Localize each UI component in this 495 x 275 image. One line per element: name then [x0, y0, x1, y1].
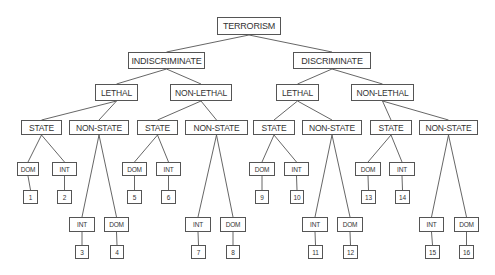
terrorism-typology-tree: TERRORISMINDISCRIMINATEDISCRIMINATELETHA… [0, 0, 495, 275]
edge-ns2-c7 [198, 135, 217, 217]
edge-s2-c5 [135, 135, 158, 162]
node-ns2: NON-STATE [185, 120, 248, 135]
edge-ns1-c4 [99, 135, 117, 217]
node-n16: 16 [459, 245, 474, 259]
edge-ns4-c16 [449, 135, 467, 217]
node-n12: 12 [343, 245, 358, 259]
edge-d_nonleth-ns4 [383, 101, 449, 120]
node-c9: DOM [249, 162, 275, 176]
node-n7: 7 [191, 245, 206, 259]
node-ns4: NON-STATE [419, 120, 478, 135]
node-c15: INT [419, 217, 444, 232]
node-c14: INT [389, 162, 415, 176]
edge-c11-n11 [315, 232, 316, 245]
node-c4: DOM [104, 217, 129, 232]
tree-connectors [0, 0, 495, 275]
node-c13: DOM [355, 162, 381, 176]
edge-ns1-c3 [82, 135, 99, 217]
node-root: TERRORISM [217, 17, 281, 35]
edge-indisc-i_leth [117, 69, 167, 84]
edge-s4-c13 [368, 135, 391, 162]
node-c8: DOM [220, 217, 246, 232]
node-c3: INT [69, 217, 95, 232]
edge-root-indisc [167, 35, 250, 52]
edge-d_leth-s3 [274, 101, 298, 120]
edge-root-disc [249, 35, 332, 52]
node-n8: 8 [226, 245, 240, 259]
node-d_nonleth: NON-LETHAL [351, 84, 414, 101]
edge-c12-n12 [350, 232, 351, 245]
edge-ns4-c15 [432, 135, 449, 217]
edge-disc-d_leth [298, 69, 333, 84]
node-n4: 4 [110, 245, 124, 259]
node-n1: 1 [23, 190, 38, 204]
edge-i_nonleth-ns2 [201, 101, 217, 120]
node-ns1: NON-STATE [69, 120, 129, 135]
node-n6: 6 [161, 190, 176, 204]
node-c1: DOM [17, 162, 39, 176]
node-n15: 15 [425, 245, 440, 259]
edge-s1-c1 [28, 135, 42, 162]
edge-c13-n13 [368, 176, 369, 190]
node-n9: 9 [255, 190, 269, 204]
node-c10: INT [284, 162, 309, 176]
node-d_leth: LETHAL [276, 84, 319, 101]
node-c7: INT [185, 217, 211, 232]
edge-i_nonleth-s2 [158, 101, 202, 120]
node-c2: INT [52, 162, 77, 176]
edge-ns2-c8 [217, 135, 234, 217]
edge-i_leth-s1 [42, 101, 117, 120]
node-s2: STATE [137, 120, 178, 135]
edge-ns3-c12 [332, 135, 350, 217]
edge-s1-c2 [42, 135, 65, 162]
node-s1: STATE [21, 120, 62, 135]
node-disc: DISCRIMINATE [293, 52, 371, 69]
edge-d_nonleth-s4 [383, 101, 392, 120]
node-c16: DOM [454, 217, 479, 232]
node-i_leth: LETHAL [95, 84, 138, 101]
node-c6: INT [156, 162, 181, 176]
edge-c1-n1 [28, 176, 31, 190]
edge-indisc-i_nonleth [167, 69, 202, 84]
edge-c10-n10 [297, 176, 298, 190]
edge-c14-n14 [402, 176, 403, 190]
edge-s3-c10 [274, 135, 297, 162]
node-ns3: NON-STATE [302, 120, 362, 135]
edge-i_leth-ns1 [99, 101, 117, 120]
node-c12: DOM [337, 217, 363, 232]
node-c5: DOM [122, 162, 147, 176]
node-n5: 5 [127, 190, 142, 204]
edge-c15-n15 [432, 232, 433, 245]
edge-d_leth-ns3 [298, 101, 333, 120]
node-i_nonleth: NON-LETHAL [170, 84, 232, 101]
edge-s3-c9 [262, 135, 274, 162]
node-s3: STATE [253, 120, 295, 135]
node-indisc: INDISCRIMINATE [128, 52, 205, 69]
node-c11: INT [302, 217, 328, 232]
edge-c4-n4 [117, 232, 118, 245]
node-n10: 10 [290, 190, 304, 204]
node-n11: 11 [308, 245, 323, 259]
edge-disc-d_nonleth [332, 69, 383, 84]
node-s4: STATE [370, 120, 412, 135]
edge-ns3-c11 [315, 135, 332, 217]
edge-s4-c14 [391, 135, 402, 162]
node-n14: 14 [395, 190, 410, 204]
node-n2: 2 [57, 190, 72, 204]
node-n13: 13 [361, 190, 376, 204]
edge-c7-n7 [198, 232, 199, 245]
edge-s2-c6 [158, 135, 169, 162]
node-n3: 3 [75, 245, 89, 259]
